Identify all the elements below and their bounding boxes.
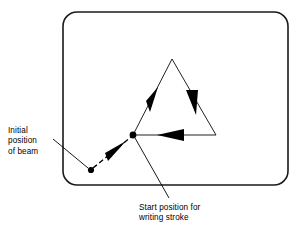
display-screen-outline — [63, 12, 288, 185]
initial-position-dot — [88, 167, 94, 173]
figure-canvas: Initial position of beam Start position … — [0, 0, 304, 235]
label-initial-position-of-beam: Initial position of beam — [8, 126, 38, 157]
start-position-dot — [130, 132, 137, 139]
label-start-position-for-writing-stroke: Start position for writing stroke — [139, 203, 200, 224]
beam-path-diagram — [0, 0, 304, 235]
